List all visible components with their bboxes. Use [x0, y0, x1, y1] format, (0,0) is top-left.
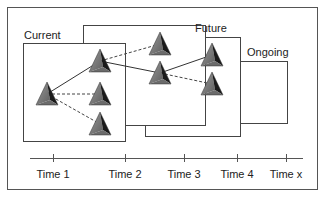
network-evolution-diagram: Current Future Ongoing Time 1Time 2Time …	[0, 0, 325, 198]
timeline-label: Time 3	[167, 168, 200, 180]
timeline-label: Time 1	[36, 168, 69, 180]
timeline-label: Time x	[270, 168, 303, 180]
timeline-label: Time 2	[108, 168, 141, 180]
label-ongoing: Ongoing	[247, 46, 289, 58]
timeline-label: Time 4	[220, 168, 253, 180]
label-future: Future	[195, 22, 227, 34]
label-current: Current	[24, 29, 61, 41]
